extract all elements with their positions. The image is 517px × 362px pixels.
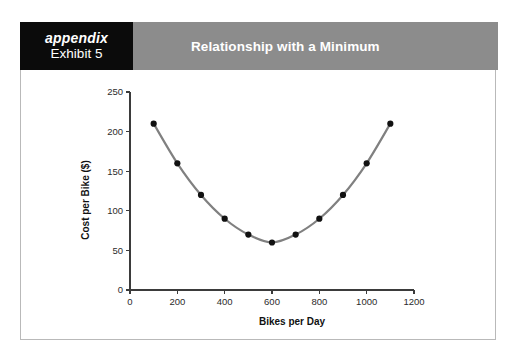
y-tick-label: 0 (118, 284, 123, 295)
exhibit-header: appendix Exhibit 5 Relationship with a M… (20, 22, 498, 70)
data-point-marker: 1000, 160 (364, 160, 370, 166)
chart-canvas: 050100150200250 020040060080010001200 10… (21, 70, 497, 340)
x-axis: 020040060080010001200 (127, 290, 424, 307)
appendix-badge: appendix Exhibit 5 (20, 22, 133, 70)
x-tick-label: 600 (264, 296, 280, 307)
appendix-word: appendix (45, 31, 108, 47)
data-point-marker: 700, 70 (293, 231, 299, 237)
exhibit-title-bar: Relationship with a Minimum (133, 22, 498, 70)
exhibit-content-panel: 050100150200250 020040060080010001200 10… (20, 70, 496, 340)
x-axis-title: Bikes per Day (259, 316, 326, 327)
data-series: 100, 210200, 160300, 120400, 90500, 7060… (151, 121, 394, 246)
data-point-marker: 1100, 210 (387, 121, 393, 127)
y-axis-title: Cost per Bike ($) (80, 160, 91, 239)
cost-per-bike-chart: 050100150200250 020040060080010001200 10… (21, 70, 497, 340)
y-tick-label: 250 (107, 86, 123, 97)
data-point-marker: 800, 90 (316, 216, 322, 222)
data-point-marker: 400, 90 (222, 216, 228, 222)
y-tick-label: 200 (107, 126, 123, 137)
data-point-marker: 500, 70 (245, 231, 251, 237)
y-axis: 050100150200250 (107, 86, 130, 295)
exhibit-number: Exhibit 5 (51, 46, 103, 61)
cost-curve (154, 124, 391, 243)
x-tick-label: 200 (169, 296, 185, 307)
data-point-marker: 600, 60 (269, 239, 275, 245)
data-point-marker: 900, 120 (340, 192, 346, 198)
x-tick-label: 400 (217, 296, 233, 307)
data-point-marker: 200, 160 (174, 160, 180, 166)
y-tick-label: 150 (107, 166, 123, 177)
x-tick-label: 0 (127, 296, 132, 307)
x-tick-label: 800 (311, 296, 327, 307)
x-tick-label: 1200 (403, 296, 424, 307)
exhibit-title: Relationship with a Minimum (133, 39, 380, 54)
y-tick-label: 100 (107, 205, 123, 216)
data-point-marker: 100, 210 (151, 121, 157, 127)
x-tick-label: 1000 (356, 296, 377, 307)
y-tick-label: 50 (112, 245, 123, 256)
data-point-marker: 300, 120 (198, 192, 204, 198)
